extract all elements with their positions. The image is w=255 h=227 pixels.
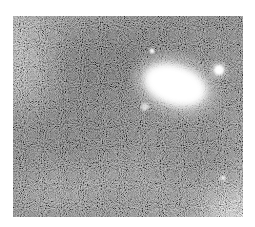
bright-star — [211, 62, 227, 78]
astronomical-image — [13, 16, 243, 217]
companion-blob — [141, 103, 149, 111]
faint-star-lower-right — [221, 176, 226, 181]
small-star-top — [150, 49, 155, 54]
film-grain — [13, 16, 243, 217]
galaxy-photo-svg — [13, 16, 243, 217]
